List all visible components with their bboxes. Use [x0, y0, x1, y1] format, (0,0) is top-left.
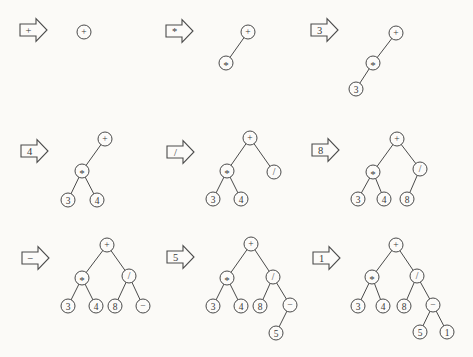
- tree-node-8: 8: [108, 299, 122, 313]
- tree-node-+: +: [389, 238, 403, 252]
- tree-node-8: 8: [400, 192, 414, 206]
- tree-node-3: 3: [349, 82, 363, 96]
- arrow-token-label: 8: [318, 145, 323, 156]
- tree-node-3: 3: [61, 299, 75, 313]
- tree-node-5: 5: [413, 325, 427, 339]
- node-label: +: [247, 133, 252, 143]
- node-label: /: [416, 271, 419, 281]
- tree-node-*: *: [219, 56, 233, 71]
- panel-step-6: 8+*/348: [312, 132, 427, 206]
- tree-node-4: 4: [90, 193, 104, 207]
- node-label: 4: [239, 302, 244, 312]
- tree-node-5: 5: [269, 326, 283, 340]
- node-label: 3: [66, 302, 71, 312]
- tree-node-/: /: [410, 269, 424, 283]
- node-label: 1: [445, 328, 450, 338]
- node-label: /: [419, 164, 422, 174]
- tree-node-+: +: [389, 26, 403, 40]
- tree-node-*: *: [75, 164, 89, 179]
- node-label: 4: [95, 196, 100, 206]
- node-label: /: [272, 272, 275, 282]
- tree-node-+: +: [98, 132, 112, 146]
- panel-step-4: 4+*34: [21, 132, 112, 207]
- node-label: *: [370, 59, 376, 71]
- next-token-arrow-icon: [167, 246, 194, 269]
- tree-node-*: *: [366, 165, 380, 180]
- tree-node-8: 8: [253, 299, 267, 313]
- node-label: 3: [356, 195, 361, 205]
- arrow-token-label: *: [172, 26, 177, 37]
- tree-node-*: *: [75, 271, 89, 286]
- arrow-token-label: 5: [173, 252, 178, 263]
- arrow-token-label: /: [174, 147, 177, 158]
- tree-node-*: *: [220, 164, 234, 179]
- tree-node-/: /: [266, 270, 280, 284]
- panel-step-2: *+*: [166, 20, 255, 71]
- tree-node-/: /: [413, 162, 427, 176]
- node-label: 3: [211, 302, 216, 312]
- node-label: 3: [356, 302, 361, 312]
- panel-step-3: 3+*3: [311, 19, 403, 97]
- tree-node-+: +: [390, 132, 404, 146]
- node-label: *: [79, 167, 85, 179]
- tree-node-*: *: [366, 56, 380, 71]
- node-label: 8: [405, 195, 410, 205]
- next-token-arrow-icon: [20, 19, 47, 42]
- node-label: 4: [382, 195, 387, 205]
- node-label: 8: [402, 302, 407, 312]
- node-label: 8: [113, 302, 118, 312]
- panel-step-7: −+*/348−: [22, 238, 150, 313]
- node-label: *: [369, 273, 375, 285]
- tree-node-4: 4: [234, 299, 248, 313]
- next-token-arrow-icon: [312, 139, 339, 162]
- node-label: /: [273, 167, 276, 177]
- tree-node-3: 3: [206, 192, 220, 206]
- node-label: −: [287, 300, 292, 310]
- node-label: 3: [354, 85, 359, 95]
- next-token-arrow-icon: [311, 19, 338, 42]
- tree-node-4: 4: [377, 192, 391, 206]
- node-label: +: [393, 240, 398, 250]
- tree-node-+: +: [241, 25, 255, 39]
- tree-node-3: 3: [206, 299, 220, 313]
- tree-node-3: 3: [351, 192, 365, 206]
- next-token-arrow-icon: [167, 141, 194, 164]
- node-label: *: [224, 167, 230, 179]
- panel-step-8: 5+*/348−5: [167, 237, 297, 340]
- tree-node-/: /: [122, 269, 136, 283]
- node-label: 8: [258, 302, 263, 312]
- node-label: *: [79, 274, 85, 286]
- tree-node-+: +: [77, 25, 91, 39]
- panel-step-5: /+*/34: [167, 131, 281, 206]
- tree-node-−: −: [283, 298, 297, 312]
- arrow-token-label: 3: [317, 25, 322, 36]
- tree-node-+: +: [244, 237, 258, 251]
- node-label: +: [104, 240, 109, 250]
- next-token-arrow-icon: [21, 140, 48, 163]
- panel-step-9: 1+*/348−51: [313, 238, 454, 339]
- tree-node-*: *: [365, 270, 379, 285]
- node-label: 3: [66, 196, 71, 206]
- arrow-token-label: 4: [27, 146, 33, 157]
- tree-node-4: 4: [376, 299, 390, 313]
- node-label: −: [430, 300, 435, 310]
- node-label: *: [370, 168, 376, 180]
- tree-node-4: 4: [234, 192, 248, 206]
- panel-step-1: ++: [20, 19, 91, 42]
- tree-node-3: 3: [61, 193, 75, 207]
- expression-tree-diagram: ++*+*3+*34+*34/+*/348+*/348−+*/348−5+*/3…: [0, 0, 473, 357]
- node-label: 3: [211, 195, 216, 205]
- node-label: 5: [274, 329, 279, 339]
- tree-node-*: *: [220, 271, 234, 286]
- expression-tree-figure: ++*+*3+*34+*34/+*/348+*/348−+*/348−5+*/3…: [0, 0, 473, 357]
- next-token-arrow-icon: [166, 20, 193, 43]
- arrow-token-label: +: [26, 25, 32, 36]
- tree-node-−: −: [136, 299, 150, 313]
- node-label: +: [102, 134, 107, 144]
- node-label: +: [248, 239, 253, 249]
- arrow-token-label: −: [28, 253, 34, 264]
- tree-node-−: −: [426, 298, 440, 312]
- tree-node-1: 1: [440, 325, 454, 339]
- node-label: 4: [94, 302, 99, 312]
- tree-node-3: 3: [351, 299, 365, 313]
